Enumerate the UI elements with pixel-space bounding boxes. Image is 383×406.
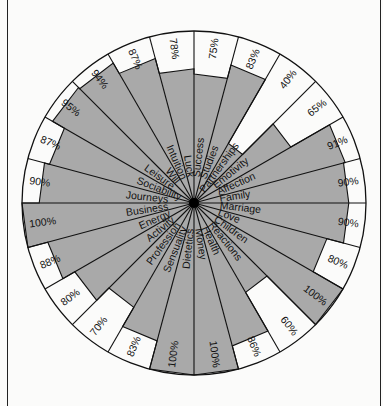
percent-label: 87% <box>126 47 145 71</box>
percent-label: 90% <box>337 174 359 189</box>
radar-chart: SuccessStudiesPartnershipsEmotivityAffec… <box>0 0 383 406</box>
percent-label: 60% <box>279 314 301 338</box>
percent-label: 90% <box>29 174 51 189</box>
center-hub <box>189 198 199 208</box>
percent-label: 80% <box>58 286 82 308</box>
percent-label: 75% <box>206 37 221 59</box>
percent-label: 83% <box>243 47 262 71</box>
percent-label: 78% <box>168 37 183 59</box>
percent-label: 40% <box>277 67 299 91</box>
percent-label: 65% <box>305 96 329 118</box>
percent-label: 70% <box>87 314 109 338</box>
percent-label: 86% <box>245 334 264 358</box>
percent-label: 83% <box>124 334 143 358</box>
percent-label: 80% <box>326 252 350 271</box>
percent-label: 87% <box>39 133 63 152</box>
